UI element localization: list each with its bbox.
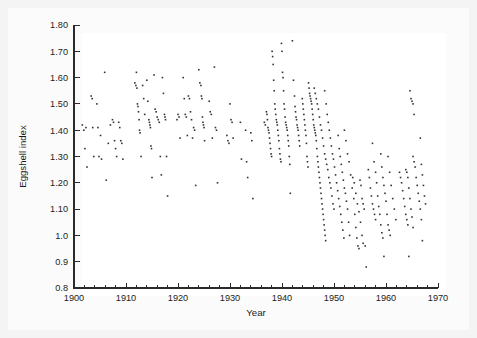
scatter-point	[307, 161, 309, 163]
scatter-point	[230, 119, 232, 121]
scatter-point	[267, 127, 269, 129]
scatter-point	[289, 164, 291, 166]
scatter-point	[149, 124, 151, 126]
scatter-point	[139, 132, 141, 134]
scatter-point	[316, 148, 318, 150]
scatter-point	[305, 135, 307, 137]
scatter-point	[314, 129, 316, 131]
scatter-point	[285, 124, 287, 126]
scatter-point	[165, 119, 167, 121]
scatter-point	[287, 135, 289, 137]
scatter-point	[350, 174, 352, 176]
scatter-point	[342, 229, 344, 231]
scatter-point	[372, 203, 374, 205]
scatter-point	[309, 93, 311, 95]
y-tick-label: 1.60	[50, 73, 68, 83]
scatter-point	[231, 122, 233, 124]
scatter-point	[270, 153, 272, 155]
scatter-point	[387, 156, 389, 158]
y-tick-label: 0.8	[55, 283, 68, 293]
scatter-point	[373, 161, 375, 163]
scatter-point	[324, 90, 326, 92]
scatter-point	[232, 137, 234, 139]
scatter-point	[97, 127, 99, 129]
scatter-point	[162, 77, 164, 79]
scatter-point	[384, 193, 386, 195]
scatter-point	[399, 171, 401, 173]
scatter-point	[313, 127, 315, 129]
scatter-point	[407, 177, 409, 179]
y-tick-label: 1.0	[55, 231, 68, 241]
y-tick-label: 1.20	[50, 178, 68, 188]
scatter-point	[101, 158, 103, 160]
scatter-point	[199, 82, 201, 84]
scatter-point	[84, 148, 86, 150]
scatter-point	[200, 85, 202, 87]
scatter-point	[178, 116, 180, 118]
scatter-point	[268, 132, 270, 134]
scatter-point	[149, 122, 151, 124]
scatter-point	[341, 221, 343, 223]
scatter-point	[251, 140, 253, 142]
scatter-point	[395, 219, 397, 221]
scatter-point	[422, 174, 424, 176]
scatter-point	[290, 193, 292, 195]
scatter-point	[330, 187, 332, 189]
scatter-point	[294, 95, 296, 97]
scatter-point	[417, 193, 419, 195]
scatter-point	[164, 114, 166, 116]
scatter-point	[312, 119, 314, 121]
scatter-point	[340, 164, 342, 166]
scatter-point	[278, 140, 280, 142]
scatter-point	[371, 195, 373, 197]
scatter-point	[216, 129, 218, 131]
scatter-point	[312, 114, 314, 116]
scatter-point	[268, 129, 270, 131]
scatter-point	[194, 129, 196, 131]
scatter-point	[303, 114, 305, 116]
scatter-point	[100, 135, 102, 137]
x-tick-label: 1940	[272, 293, 292, 303]
scatter-point	[202, 116, 204, 118]
scatter-point	[343, 237, 345, 239]
scatter-point	[275, 119, 277, 121]
scatter-point	[201, 95, 203, 97]
scatter-point	[148, 119, 150, 121]
scatter-point	[359, 179, 361, 181]
scatter-point	[245, 129, 247, 131]
scatter-point	[327, 169, 329, 171]
scatter-point	[385, 200, 387, 202]
scatter-point	[307, 166, 309, 168]
scatter-point	[113, 122, 115, 124]
scatter-point	[361, 235, 363, 237]
scatter-point	[116, 156, 118, 158]
scatter-point	[332, 203, 334, 205]
scatter-point	[340, 214, 342, 216]
scatter-point	[144, 114, 146, 116]
scatter-point	[308, 87, 310, 89]
scatter-point	[301, 98, 303, 100]
scatter-point	[265, 124, 267, 126]
scatter-point	[311, 103, 313, 105]
scatter-point	[150, 145, 152, 147]
scatter-point	[264, 122, 266, 124]
scatter-point	[323, 145, 325, 147]
scatter-point	[336, 182, 338, 184]
scatter-point	[388, 229, 390, 231]
scatter-point	[272, 64, 274, 66]
scatter-point	[228, 143, 230, 145]
scatter-point	[303, 108, 305, 110]
scatter-point	[361, 198, 363, 200]
figure-panel: 190019101920193019401950196019700.80.91.…	[8, 8, 469, 330]
scatter-point	[136, 72, 138, 74]
scatter-point	[337, 135, 339, 137]
scatter-point	[189, 98, 191, 100]
x-tick-label: 1930	[220, 293, 240, 303]
scatter-point	[191, 119, 193, 121]
scatter-point	[156, 116, 158, 118]
scatter-point	[353, 198, 355, 200]
scatter-point	[383, 185, 385, 187]
scatter-point	[357, 203, 359, 205]
x-tick-label: 1920	[168, 293, 188, 303]
scatter-point	[357, 245, 359, 247]
